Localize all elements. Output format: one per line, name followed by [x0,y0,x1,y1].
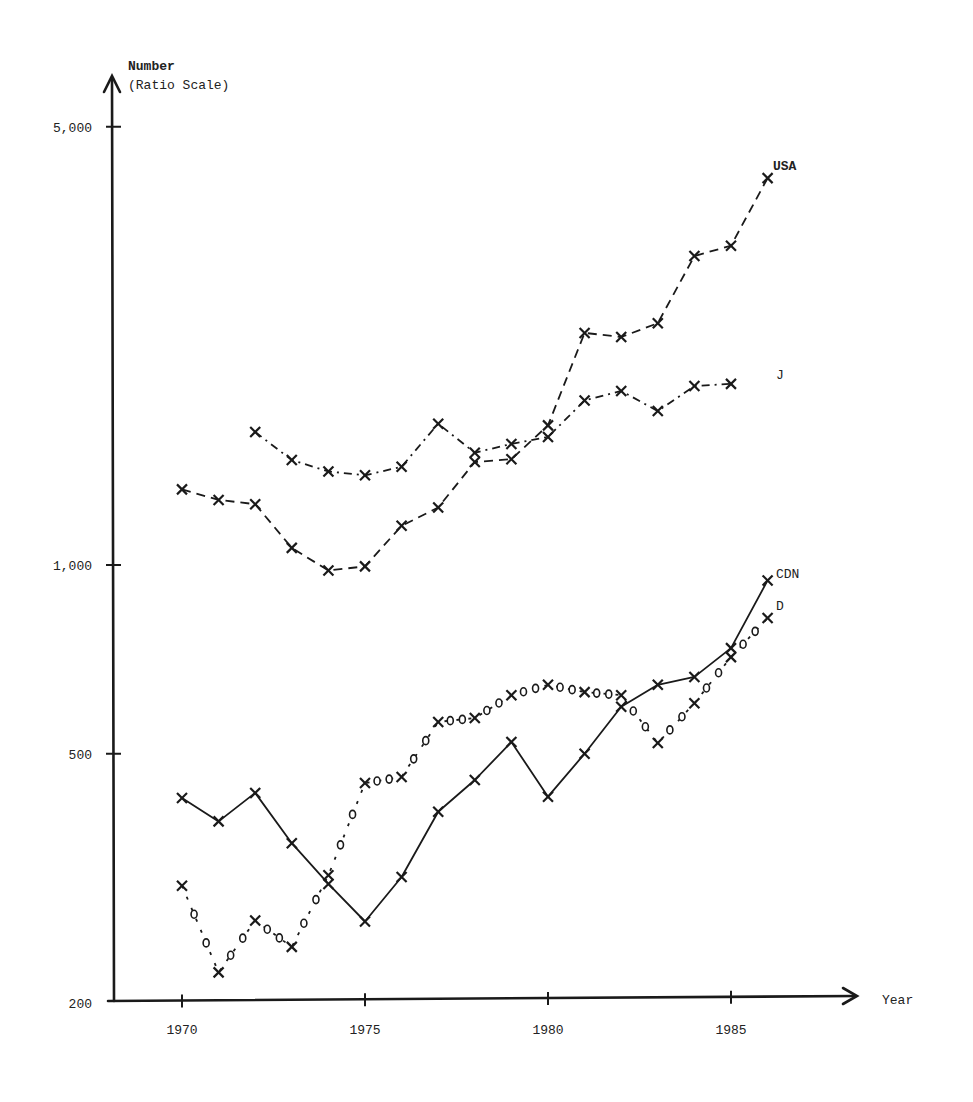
circle-marker-icon [716,669,722,677]
circle-marker-icon [630,707,636,715]
circle-marker-icon [423,737,429,745]
y-tick-label: 5,000 [53,121,92,136]
circle-marker-icon [606,690,612,698]
circle-marker-icon [703,684,709,692]
series-d [177,613,773,977]
x-marker-icon [250,379,736,480]
circle-marker-icon [496,699,502,707]
circle-marker-icon [459,715,465,723]
series-label-d: D [776,599,784,614]
series-label-j: J [776,368,784,383]
circle-marker-icon [752,627,758,635]
circle-marker-icon [679,713,685,721]
circle-marker-icon [411,755,417,763]
circle-marker-icon [740,640,746,648]
circle-marker-icon [667,726,673,734]
series-line [182,580,768,921]
circle-marker-icon [533,684,539,692]
series-usa [177,173,773,575]
series-j [250,379,736,480]
circle-marker-icon [374,777,380,785]
circle-marker-icon [203,939,209,947]
series-layer [177,173,773,977]
x-marker-icon [177,173,773,575]
y-axis [104,76,120,1001]
circle-marker-icon [386,775,392,783]
circle-marker-icon [484,707,490,715]
series-line [182,618,768,972]
y-axis-ticks: 2005001,0005,000 [53,121,121,1013]
circle-marker-icon [313,896,319,904]
circle-marker-icon [240,934,246,942]
circle-marker-icon [520,688,526,696]
circle-marker-icon [276,934,282,942]
y-axis-title: Number [128,59,175,74]
x-marker-icon [177,575,773,926]
circle-marker-icon [447,717,453,725]
circle-marker-icon [557,683,563,691]
x-marker-icon [177,613,773,977]
circle-marker-icon [228,951,234,959]
series-line [255,384,731,476]
y-axis-subtitle: (Ratio Scale) [128,78,229,93]
circle-marker-icon [569,686,575,694]
series-line [182,178,768,570]
series-label-usa: USA [773,159,797,174]
x-axis [108,988,857,1004]
series-label-cdn: CDN [776,567,799,582]
circle-marker-icon [191,910,197,918]
y-tick-label: 500 [69,748,92,763]
x-tick-label: 1970 [166,1023,197,1038]
circle-marker-icon [350,810,356,818]
x-tick-label: 1975 [349,1023,380,1038]
y-tick-label: 200 [69,997,92,1012]
series-cdn [177,575,773,926]
x-tick-label: 1985 [715,1023,746,1038]
circle-marker-icon [301,919,307,927]
circle-marker-icon [642,723,648,731]
circle-marker-icon [264,925,270,933]
x-tick-label: 1980 [532,1023,563,1038]
circle-marker-icon [594,689,600,697]
x-axis-title: Year [882,993,913,1008]
line-chart: 2005001,0005,000 1970197519801985 Number… [0,0,973,1102]
y-tick-label: 1,000 [53,559,92,574]
circle-marker-icon [337,841,343,849]
